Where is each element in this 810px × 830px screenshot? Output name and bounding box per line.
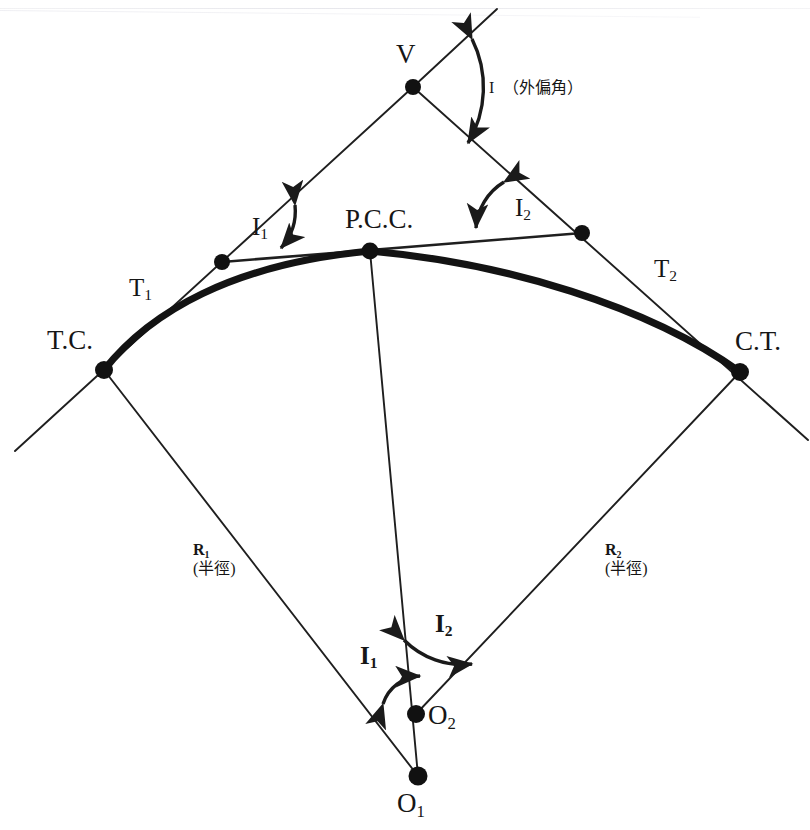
angle-arc-I1-lower (383, 676, 420, 704)
line-back-tangent (15, 87, 413, 451)
r1-subscript: 1 (205, 549, 210, 560)
curve-arc-1 (104, 251, 370, 370)
tangent-label-t2: T2 (654, 256, 677, 285)
angle-arc-I2-lower (404, 640, 472, 665)
angle-label-i2-upper: I2 (515, 195, 531, 224)
point-dot-O1 (409, 767, 428, 786)
point-dot-PCC (362, 243, 379, 260)
t1-base: T (129, 274, 144, 301)
i1-upper-subscript: 1 (260, 225, 268, 242)
t2-base: T (654, 255, 669, 282)
point-label-o1: O1 (397, 789, 425, 820)
r1-symbol-line: R1 (193, 542, 236, 560)
angle-arcs (281, 39, 504, 704)
i2-upper-subscript: 2 (523, 206, 531, 223)
tangent-label-t1: T1 (129, 275, 152, 304)
t2-subscript: 2 (669, 267, 677, 284)
r2-note: (半徑) (605, 561, 648, 578)
o1-base: O (397, 788, 417, 818)
i2-lower-base: I (435, 610, 445, 637)
radius-label-r1: R1 (半徑) (193, 542, 236, 578)
construction-lines (15, 9, 808, 776)
r2-symbol-line: R2 (605, 542, 648, 560)
point-dot-O2 (407, 705, 425, 723)
line-radius-2 (416, 372, 740, 714)
i1-lower-subscript: 1 (370, 654, 378, 671)
point-label-o2: O2 (428, 701, 456, 732)
point-label-tc: T.C. (47, 326, 93, 354)
i2-lower-subscript: 2 (445, 622, 453, 639)
point-label-pcc: P.C.C. (345, 205, 413, 233)
r1-base: R (193, 541, 205, 558)
curve-arc-2 (370, 251, 740, 372)
r1-note: (半徑) (193, 561, 236, 578)
diagram-canvas (0, 0, 810, 830)
point-dot-TC (95, 361, 113, 379)
point-label-ct: C.T. (735, 327, 781, 355)
angle-label-i2-lower: I2 (435, 611, 452, 640)
line-radius-pcc (370, 251, 418, 776)
point-dot-CT (731, 363, 749, 381)
o2-base: O (428, 700, 448, 730)
r2-base: R (605, 541, 617, 558)
compound-curve-path (104, 251, 740, 372)
point-dot-V (405, 79, 421, 95)
angle-label-i1-upper: I1 (252, 214, 268, 243)
r2-subscript: 2 (617, 549, 622, 560)
angle-arc-I1-upper (281, 205, 295, 248)
point-dot-tangent-right (574, 225, 590, 241)
deflection-angle-label: I （外偏角） (489, 80, 583, 97)
i1-lower-base: I (360, 642, 370, 669)
o1-subscript: 1 (417, 802, 425, 821)
point-dot-tangent-left (214, 254, 230, 270)
radius-label-r2: R2 (半徑) (605, 542, 648, 578)
o2-subscript: 2 (448, 714, 456, 733)
angle-label-i1-lower: I1 (360, 643, 377, 672)
angle-arc-I2-upper (476, 182, 504, 228)
deflection-angle-symbol: I (489, 80, 494, 97)
deflection-angle-note: （外偏角） (503, 80, 583, 97)
point-label-V: V (396, 40, 416, 68)
line-radius-1 (104, 370, 418, 776)
t1-subscript: 1 (144, 286, 152, 303)
compound-curve-diagram: V P.C.C. T.C. C.T. O1 O2 I （外偏角） I1 I2 T… (0, 0, 810, 830)
node-dots (95, 79, 749, 786)
angle-arc-I (468, 39, 483, 143)
